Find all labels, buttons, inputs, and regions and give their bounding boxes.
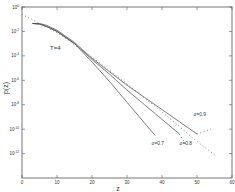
series-line [197,129,211,134]
y-axis-ticks: 10010-210-410-610-810-1010-12 [9,4,232,157]
annotation-label: T=4 [50,45,61,51]
chart: 10010-210-410-610-810-1010-12 0102030405… [0,0,235,192]
y-tick-label: 10-4 [11,52,19,58]
y-tick-label: 10-6 [11,77,19,83]
series-lines [22,14,215,155]
x-tick-label: 30 [124,180,130,185]
plot-frame [22,7,232,178]
x-tick-label: 60 [229,180,235,185]
x-axis-ticks: 0102030405060 [21,7,235,185]
x-axis-label: z [116,185,120,192]
y-tick-label: 10-10 [9,126,19,132]
x-tick-label: 50 [194,180,200,185]
x-tick-label: 10 [54,180,60,185]
annotation-label: σ=0.8 [180,141,193,146]
y-tick-label: 100 [12,4,19,10]
series-line [22,14,215,155]
y-tick-label: 10-8 [11,101,19,107]
y-tick-label: 10-12 [9,150,19,156]
series-line [33,24,180,135]
x-tick-label: 0 [21,180,24,185]
y-axis-label: p(z) [2,82,10,94]
annotation-label: σ=0.9 [194,112,207,117]
annotation-label: σ=0.7 [152,141,165,146]
x-tick-label: 40 [159,180,165,185]
series-line [33,24,156,136]
y-tick-label: 10-2 [11,28,19,34]
annotations: T=4σ=0.7σ=0.8σ=0.9 [50,45,206,146]
x-tick-label: 20 [89,180,95,185]
